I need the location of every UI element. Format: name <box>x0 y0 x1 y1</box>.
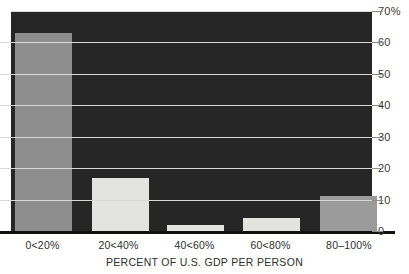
gridline-40 <box>11 105 372 106</box>
bar-20-40 <box>92 178 149 231</box>
ytick-mark-0 <box>372 231 383 232</box>
xtick-label-60-80: 60<80% <box>233 239 308 251</box>
ytick-mark-10 <box>372 200 383 201</box>
bar-80-100 <box>320 196 377 231</box>
ytick-stub-20 <box>0 168 11 169</box>
ytick-mark-30 <box>372 137 383 138</box>
x-axis-line <box>0 231 395 234</box>
gridline-30 <box>11 137 372 138</box>
ytick-stub-60 <box>0 42 11 43</box>
gridline-10 <box>11 200 372 201</box>
xtick-label-80-100: 80–100% <box>309 239 389 251</box>
plot-area <box>11 11 372 231</box>
ytick-stub-50 <box>0 74 11 75</box>
ytick-mark-40 <box>372 105 383 106</box>
xtick-label-20-40: 20<40% <box>81 239 156 251</box>
bar-chart: 70% 60 50 40 30 20 10 0 0<20% 20<40% 40<… <box>0 0 409 274</box>
xtick-label-0-20: 0<20% <box>5 239 80 251</box>
ytick-stub-30 <box>0 137 11 138</box>
ytick-mark-60 <box>372 42 383 43</box>
gridline-50 <box>11 74 372 75</box>
ytick-mark-20 <box>372 168 383 169</box>
bar-0-20 <box>15 33 72 231</box>
ytick-stub-10 <box>0 200 11 201</box>
bar-40-60 <box>167 225 224 231</box>
gridline-60 <box>11 42 372 43</box>
gridline-70 <box>11 11 372 12</box>
x-axis-title: PERCENT OF U.S. GDP PER PERSON <box>0 256 409 268</box>
bar-60-80 <box>243 218 300 231</box>
xtick-label-40-60: 40<60% <box>157 239 232 251</box>
gridline-20 <box>11 168 372 169</box>
ytick-stub-40 <box>0 105 11 106</box>
ytick-mark-70 <box>372 11 383 12</box>
ytick-mark-50 <box>372 74 383 75</box>
